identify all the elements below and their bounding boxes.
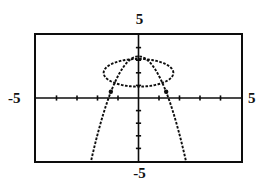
graph-window[interactable] (34, 33, 243, 163)
graph-plot-area (36, 35, 241, 161)
x-max-label: 5 (248, 91, 256, 106)
intersection-point (164, 90, 168, 94)
x-min-label: -5 (8, 91, 21, 106)
y-max-label: 5 (0, 12, 259, 27)
intersection-point (109, 90, 113, 94)
graphing-calculator-screenshot: 5 -5 5 -5 (0, 0, 259, 186)
y-min-label: -5 (0, 166, 259, 181)
